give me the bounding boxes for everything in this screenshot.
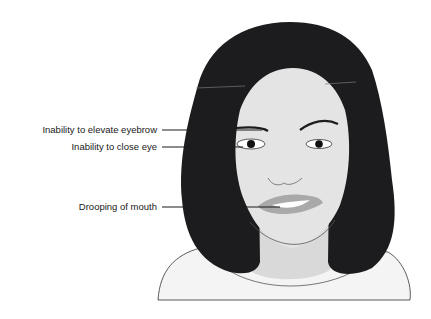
- label-eyebrow: Inability to elevate eyebrow: [42, 124, 157, 136]
- label-eye: Inability to close eye: [71, 141, 157, 153]
- face-illustration: [0, 0, 431, 319]
- label-mouth: Drooping of mouth: [79, 201, 157, 213]
